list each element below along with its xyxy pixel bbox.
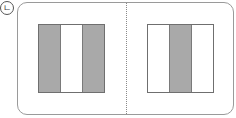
- left-striped-square: [38, 24, 105, 93]
- stripe: [60, 25, 82, 92]
- stripe: [191, 25, 213, 92]
- right-striped-square: [147, 24, 214, 93]
- stripe: [148, 25, 169, 92]
- circled-label: ㄴ: [0, 1, 14, 15]
- stripe: [39, 25, 60, 92]
- stripe: [169, 25, 191, 92]
- dotted-divider: [126, 3, 127, 114]
- stripe: [82, 25, 104, 92]
